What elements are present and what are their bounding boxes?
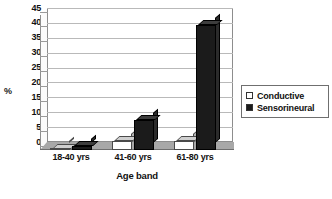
legend-swatch-icon-conductive bbox=[246, 92, 253, 99]
legend-label-sensorineural: Sensorineural bbox=[257, 103, 314, 113]
bar-front-face bbox=[134, 120, 154, 150]
bar-sensorineural-41-60-yrs bbox=[134, 113, 154, 150]
bar-front-face bbox=[112, 141, 132, 150]
legend-label-conductive: Conductive bbox=[257, 91, 304, 101]
bar-conductive-41-60-yrs bbox=[112, 134, 132, 150]
bar-front-face bbox=[196, 25, 216, 150]
x-axis-tick-label: 61-80 yrs bbox=[161, 152, 229, 162]
legend-item-sensorineural: Sensorineural bbox=[246, 102, 324, 113]
bar-front-face bbox=[174, 141, 194, 150]
plot-area bbox=[40, 8, 234, 155]
bar-chart: % 051015202530354045 18-40 yrs41-60 yrs6… bbox=[0, 0, 332, 199]
x-axis-tick-label: 41-60 yrs bbox=[99, 152, 167, 162]
chart-legend: Conductive Sensorineural bbox=[241, 85, 329, 118]
y-axis-title: % bbox=[4, 86, 12, 96]
bar-conductive-18-40-yrs bbox=[50, 142, 70, 150]
bar-sensorineural-61-80-yrs bbox=[196, 18, 216, 150]
y-axis-tick-labels: 051015202530354045 bbox=[17, 8, 41, 149]
x-axis-tick-label: 18-40 yrs bbox=[37, 152, 105, 162]
legend-swatch-icon-sensorineural bbox=[246, 104, 253, 111]
bars-layer bbox=[40, 8, 234, 155]
bar-front-face bbox=[50, 148, 70, 150]
legend-item-conductive: Conductive bbox=[246, 90, 324, 101]
bar-front-face bbox=[72, 146, 92, 150]
bar-conductive-61-80-yrs bbox=[174, 134, 194, 150]
x-axis-title: Age band bbox=[40, 170, 234, 181]
x-axis-tick-labels: 18-40 yrs41-60 yrs61-80 yrs bbox=[40, 152, 234, 166]
bar-sensorineural-18-40-yrs bbox=[72, 139, 92, 150]
